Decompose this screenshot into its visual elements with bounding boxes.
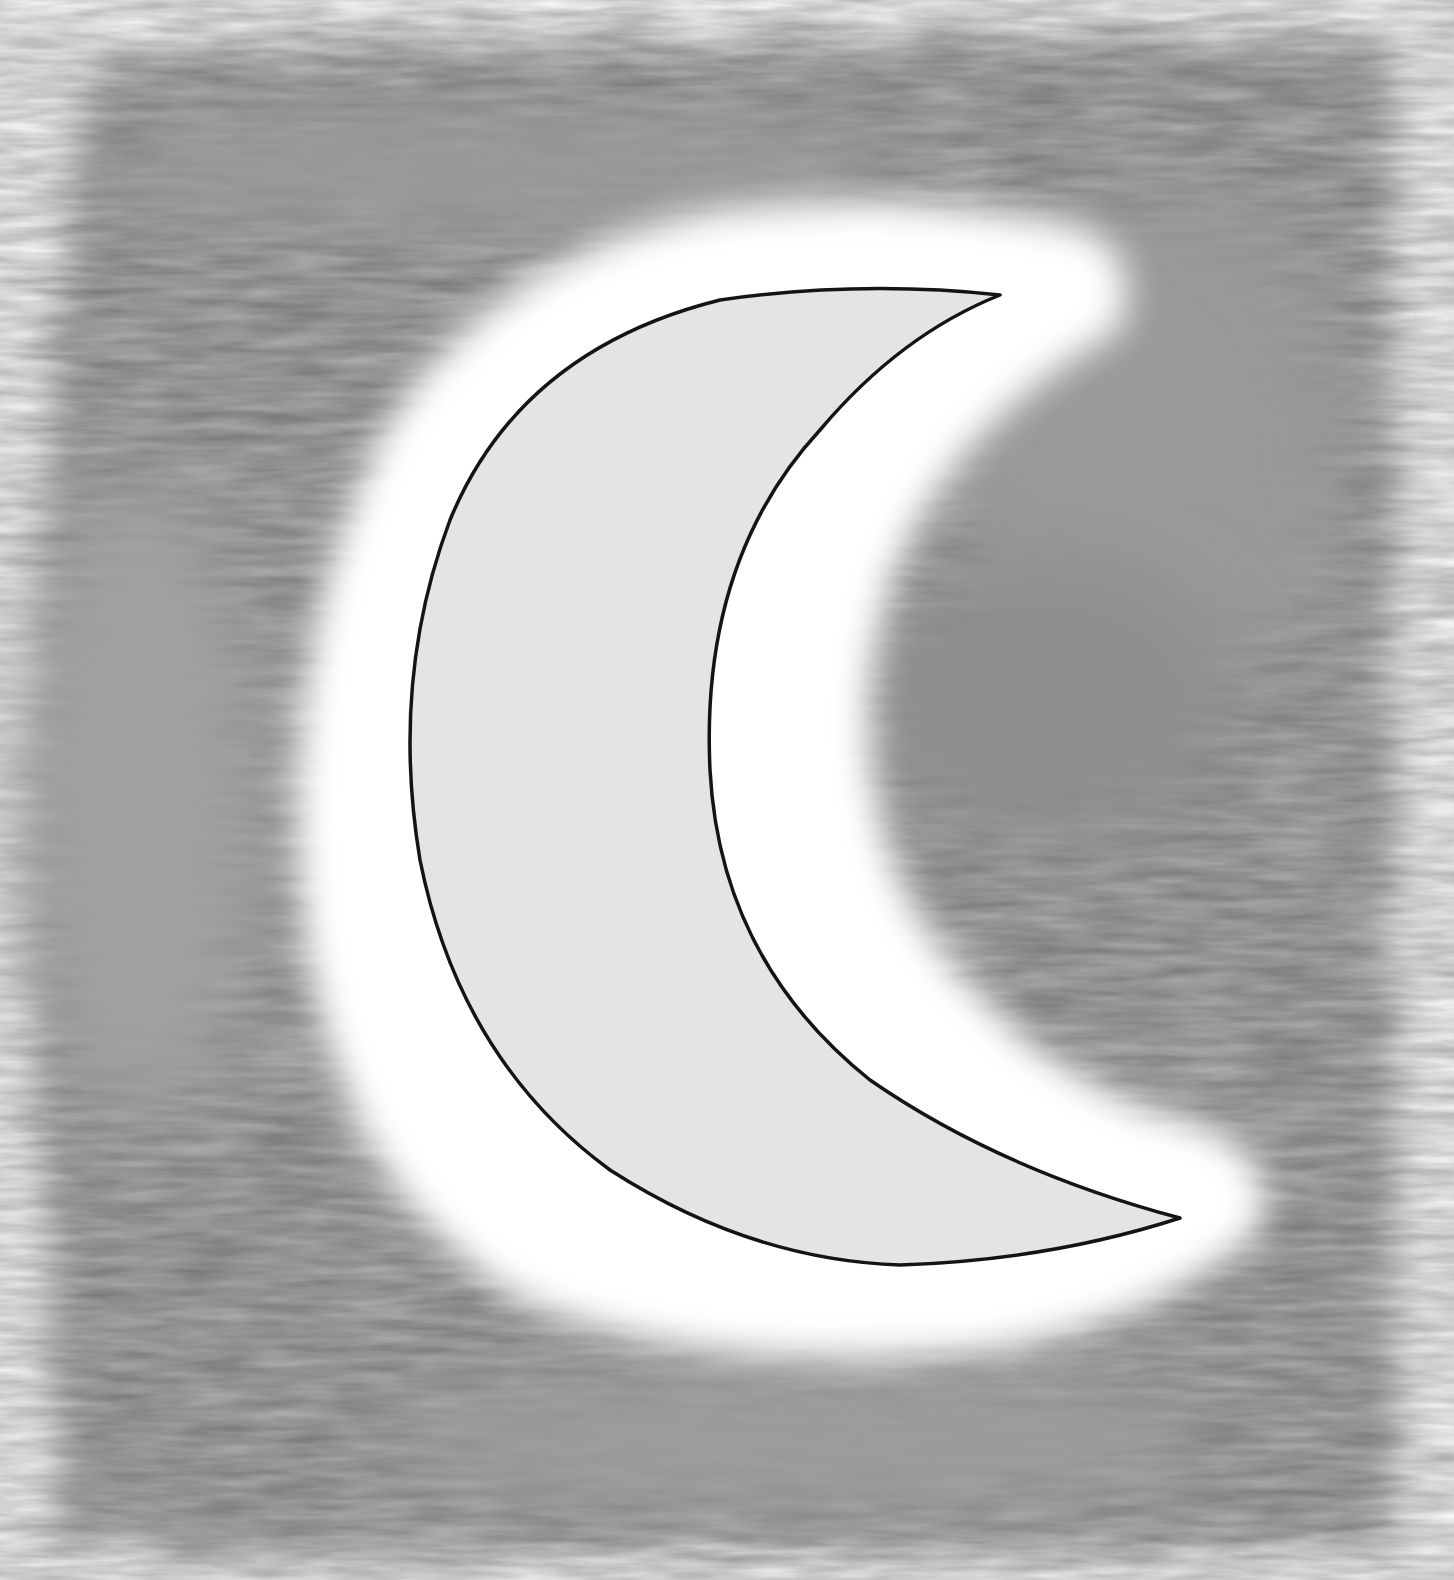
crescent-moon-illustration — [0, 0, 1454, 1580]
watercolor-artwork: Watercolor illustration of a crescent mo… — [0, 0, 1454, 1580]
